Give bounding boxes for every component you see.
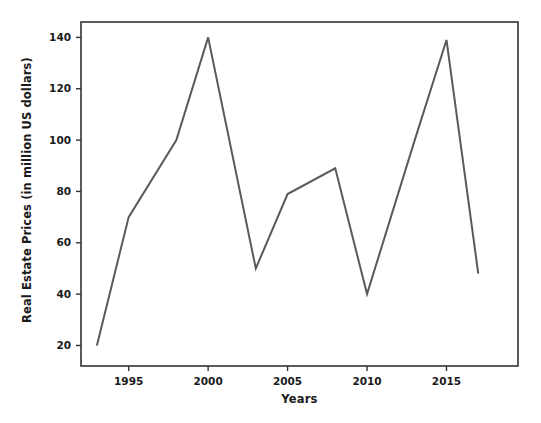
y-tick-label: 120 <box>49 82 71 94</box>
plot-frame <box>81 22 518 366</box>
y-tick-label: 100 <box>49 134 71 146</box>
y-tick-label: 80 <box>56 185 71 197</box>
y-axis-ticks: 20406080100120140 <box>49 31 81 351</box>
y-tick-label: 20 <box>56 339 71 351</box>
data-series <box>97 37 478 345</box>
x-axis-ticks: 19952000200520102015 <box>114 366 461 387</box>
x-tick-label: 2005 <box>273 375 302 387</box>
plot-frame-rect <box>81 22 518 366</box>
line-chart: Real Estate Prices (in million US dollar… <box>0 0 541 423</box>
x-tick-label: 2000 <box>194 375 223 387</box>
x-tick-label: 2010 <box>352 375 381 387</box>
y-tick-label: 40 <box>56 288 71 300</box>
x-tick-label: 2015 <box>432 375 461 387</box>
x-tick-label: 1995 <box>114 375 143 387</box>
series-line <box>97 37 478 345</box>
y-tick-label: 140 <box>49 31 71 43</box>
y-tick-label: 60 <box>56 236 71 248</box>
plot-area: 20406080100120140 19952000200520102015 <box>0 0 541 423</box>
